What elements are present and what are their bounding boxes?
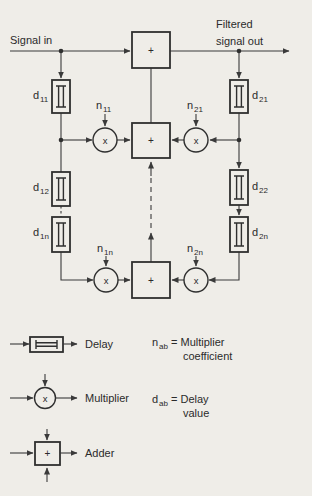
delay-d12-box bbox=[52, 172, 70, 206]
junction-dot bbox=[237, 138, 242, 143]
delay-d11 bbox=[52, 80, 70, 113]
times-icon: x bbox=[194, 135, 199, 146]
plus-icon: + bbox=[45, 448, 51, 459]
legend-delay-label: Delay bbox=[85, 338, 114, 350]
label-sub: 1n bbox=[40, 232, 49, 241]
label-sub: ab bbox=[159, 399, 168, 408]
times-icon: x bbox=[194, 275, 199, 286]
delay-d21 bbox=[230, 80, 248, 113]
diagram-background bbox=[0, 0, 312, 496]
label-sub: 12 bbox=[40, 187, 49, 196]
delay-d1n bbox=[52, 217, 70, 252]
label-base: n bbox=[187, 99, 193, 111]
junction-dot bbox=[59, 49, 64, 54]
adder-bottom: + bbox=[132, 262, 170, 298]
definition-text: = Delay bbox=[171, 393, 209, 405]
label-sub: 21 bbox=[194, 105, 203, 114]
filtered-label-line1: Filtered bbox=[216, 18, 253, 30]
delay-d11-box bbox=[52, 80, 70, 113]
label-sub: 22 bbox=[259, 186, 268, 195]
label-base: d bbox=[252, 89, 258, 101]
label-base: n bbox=[96, 99, 102, 111]
definition-text-line2: value bbox=[183, 407, 209, 419]
plus-icon: + bbox=[148, 45, 154, 56]
filter-block-diagram: Signal in Filtered signal out bbox=[0, 0, 312, 496]
label-sub: 11 bbox=[40, 95, 49, 104]
delay-d22-box bbox=[230, 170, 248, 205]
delay-d22 bbox=[230, 170, 248, 205]
delay-d1n-box bbox=[52, 217, 70, 252]
delay-d12 bbox=[52, 172, 70, 206]
label-base: d bbox=[252, 180, 258, 192]
signal-in-label: Signal in bbox=[10, 34, 52, 46]
plus-icon: + bbox=[148, 275, 154, 286]
junction-dot bbox=[59, 138, 64, 143]
multiplier-bottom-right: x bbox=[184, 268, 208, 292]
delay-d2n bbox=[230, 217, 248, 252]
label-sub: 21 bbox=[259, 95, 268, 104]
definition-text: = Multiplier bbox=[171, 336, 225, 348]
label-sub: ab bbox=[159, 342, 168, 351]
label-base: n bbox=[152, 336, 158, 348]
delay-d2n-box bbox=[230, 217, 248, 252]
label-base: n bbox=[97, 242, 103, 254]
times-icon: x bbox=[104, 275, 109, 286]
adder-top: + bbox=[132, 32, 170, 68]
label-base: n bbox=[187, 242, 193, 254]
label-base: d bbox=[33, 226, 39, 238]
label-sub: 1n bbox=[104, 248, 113, 257]
label-base: d bbox=[152, 393, 158, 405]
legend-delay-box bbox=[30, 337, 63, 352]
label-sub: 2n bbox=[259, 232, 268, 241]
multiplier-bottom-left: x bbox=[94, 268, 118, 292]
times-icon: x bbox=[43, 393, 48, 404]
adder-middle: + bbox=[132, 123, 170, 158]
multiplier-mid-right: x bbox=[184, 128, 208, 152]
label-base: d bbox=[252, 226, 258, 238]
label-sub: 2n bbox=[194, 248, 203, 257]
multiplier-mid-left: x bbox=[93, 128, 117, 152]
label-base: d bbox=[33, 89, 39, 101]
plus-icon: + bbox=[148, 135, 154, 146]
legend-adder-label: Adder bbox=[85, 447, 115, 459]
times-icon: x bbox=[103, 135, 108, 146]
legend-multiplier-label: Multiplier bbox=[85, 392, 129, 404]
filtered-label-line2: signal out bbox=[216, 35, 263, 47]
delay-d21-box bbox=[230, 80, 248, 113]
figure-stage: Signal in Filtered signal out bbox=[0, 0, 312, 496]
junction-dot bbox=[237, 49, 242, 54]
definition-text-line2: coefficient bbox=[183, 350, 232, 362]
label-sub: 11 bbox=[103, 105, 112, 114]
label-base: d bbox=[33, 181, 39, 193]
